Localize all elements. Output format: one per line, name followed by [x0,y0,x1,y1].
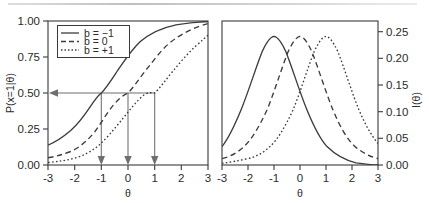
left-xticklabel-3: 0 [125,172,131,184]
left-y-ticks [43,21,48,165]
two-panel-plot: 0.00 0.25 0.50 0.75 1.00 -3 -2 -1 0 [0,0,429,203]
right-xaxis-label: θ [297,187,303,199]
right-y-ticks [378,32,383,165]
left-x-ticklabels: -3 -2 -1 0 1 2 3 [43,172,211,184]
left-xticklabel-0: -3 [43,172,53,184]
right-yticklabel-5: 0.25 [386,26,408,38]
right-xticklabel-1: -2 [243,172,253,184]
left-xticklabel-6: 3 [205,172,211,184]
left-yticklabel-1: 0.25 [18,123,40,135]
right-xticklabel-2: -1 [269,172,279,184]
right-xticklabel-0: -3 [217,172,227,184]
right-xticklabel-5: 2 [349,172,355,184]
right-yticklabel-1: 0.05 [386,132,408,144]
left-xticklabel-1: -2 [70,172,80,184]
right-yticklabel-2: 0.10 [386,106,408,118]
left-yticklabel-0: 0.00 [18,159,40,171]
left-yaxis-label: P(x=1|θ) [4,73,16,113]
left-yticklabel-4: 1.00 [18,15,40,27]
reference-arrow-down-0-icon [124,156,131,165]
left-yticklabel-3: 0.75 [18,51,40,63]
left-yticklabel-2: 0.50 [18,87,40,99]
right-y-ticklabels: 0.00 0.05 0.10 0.15 0.20 0.25 [386,26,408,171]
right-yticklabel-0: 0.00 [386,159,408,171]
left-xaxis-label: θ [125,187,131,199]
right-curves [222,36,378,165]
right-xticklabel-4: 1 [323,172,329,184]
left-y-ticklabels: 0.00 0.25 0.50 0.75 1.00 [18,15,40,171]
right-yticklabel-4: 0.20 [386,52,408,64]
panel-left: 0.00 0.25 0.50 0.75 1.00 -3 -2 -1 0 [4,15,211,199]
right-yticklabel-3: 0.15 [386,79,408,91]
left-xticklabel-2: -1 [96,172,106,184]
right-x-ticks [222,165,378,170]
figure-container: 0.00 0.25 0.50 0.75 1.00 -3 -2 -1 0 [0,0,429,203]
legend: b = −1 b = 0 b = +1 [58,26,130,58]
right-x-ticklabels: -3 -2 -1 0 1 2 3 [217,172,381,184]
right-yaxis-label: I(θ) [410,92,422,108]
reference-arrow-down-pos1-icon [151,156,158,165]
scan-artifact-band [8,3,417,5]
right-xticklabel-3: 0 [297,172,303,184]
legend-label-b-pos1: b = +1 [84,44,114,56]
panel-right: 0.00 0.05 0.10 0.15 0.20 0.25 -3 -2 - [217,21,422,199]
right-xticklabel-6: 3 [375,172,381,184]
reference-arrow-down-neg1-icon [98,156,105,165]
reference-arrow-left-icon [49,89,58,96]
left-xticklabel-5: 2 [178,172,184,184]
left-x-ticks [48,165,208,170]
left-xticklabel-4: 1 [151,172,157,184]
